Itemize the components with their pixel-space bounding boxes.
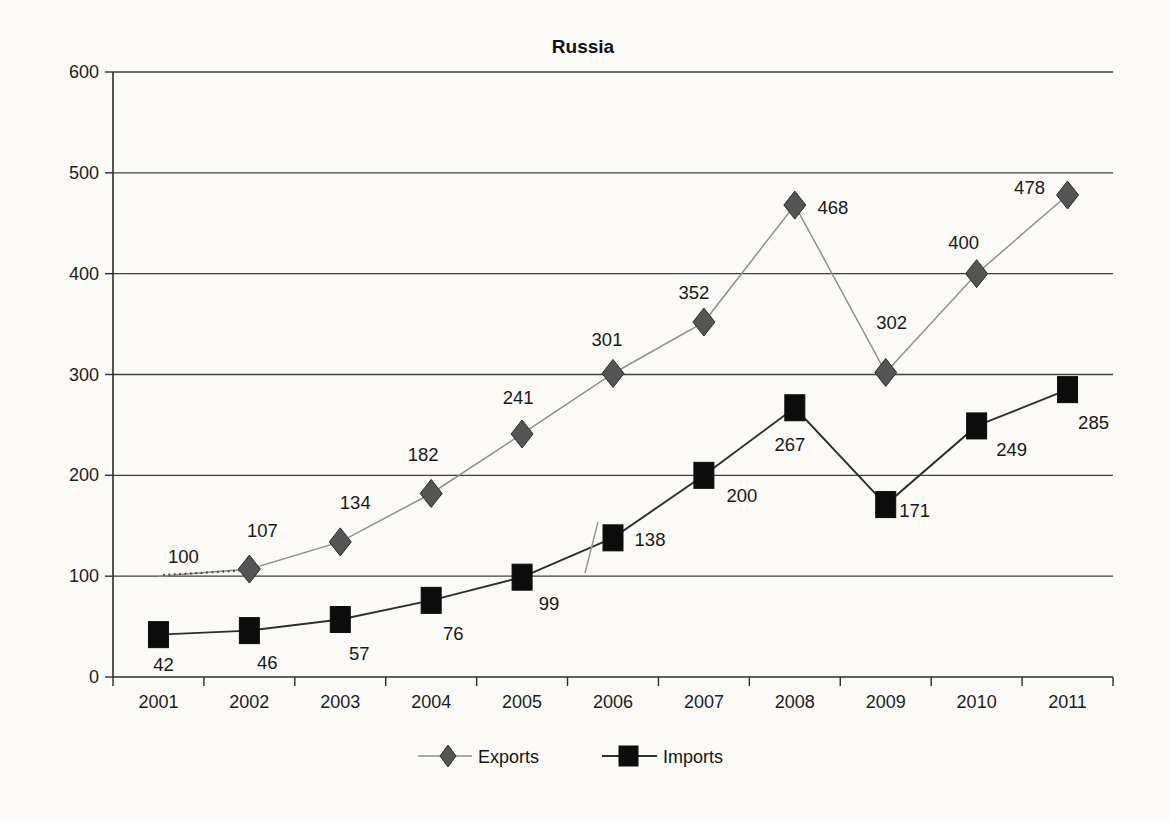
legend: Exports Imports [418,745,723,767]
x-tick-label-2003: 2003 [320,692,360,712]
point-exports-2004 [420,479,442,507]
y-tick-label-400: 400 [69,264,99,284]
value-label-exports-2009: 302 [876,312,907,333]
x-tick-label-2008: 2008 [775,692,815,712]
point-imports-2010 [967,413,987,439]
y-tick-label-600: 600 [69,62,99,82]
x-tick-label-2007: 2007 [684,692,724,712]
x-tick-label-2009: 2009 [866,692,906,712]
point-imports-2002 [239,618,259,644]
x-tick-label-2010: 2010 [957,692,997,712]
value-label-imports-2008: 267 [774,434,805,455]
value-label-imports-2002: 46 [257,652,278,673]
value-label-imports-2011: 285 [1078,412,1109,433]
legend-exports-diamond-icon [440,745,456,767]
point-exports-2003 [329,528,351,556]
legend-label-exports: Exports [478,747,539,767]
x-tick-label-2011: 2011 [1048,692,1087,712]
point-imports-2011 [1058,377,1078,403]
point-imports-2008 [785,395,805,421]
point-exports-2011 [1057,181,1079,209]
value-label-imports-2009: 171 [899,500,930,521]
series-layer [148,181,1078,648]
y-tick-label-200: 200 [69,465,99,485]
value-label-exports-2005: 241 [503,387,534,408]
value-label-exports-2003: 134 [340,492,371,513]
value-label-imports-2010: 249 [996,439,1027,460]
value-label-exports-2008: 468 [817,197,848,218]
point-exports-2009 [875,358,897,386]
value-label-exports-2001: 100 [168,546,199,567]
value-label-imports-2006: 138 [635,529,666,550]
point-imports-2001 [148,622,168,648]
value-label-exports-2006: 301 [592,329,623,350]
value-label-imports-2007: 200 [726,485,757,506]
chart-title: Russia [552,36,615,57]
x-tick-label-2002: 2002 [229,692,269,712]
x-tick-label-2005: 2005 [502,692,542,712]
x-tick-label-2006: 2006 [593,692,633,712]
russia-trade-line-chart: 0100200300400500600200120022003200420052… [0,0,1169,823]
scanned-chart-page: 0100200300400500600200120022003200420052… [0,0,1169,823]
value-label-exports-2011: 478 [1014,177,1045,198]
point-exports-2010 [966,260,988,288]
legend-label-imports: Imports [663,747,723,767]
value-label-imports-2003: 57 [349,643,370,664]
value-label-exports-2007: 352 [678,282,709,303]
value-label-exports-2010: 400 [948,232,979,253]
point-imports-2003 [330,607,350,633]
point-exports-2006 [602,359,624,387]
value-label-exports-2002: 107 [247,520,278,541]
scan-artifact-slash [585,522,598,573]
point-imports-2005 [512,564,532,590]
point-imports-2009 [876,492,896,518]
y-tick-label-0: 0 [89,667,99,687]
point-imports-2007 [694,462,714,488]
value-label-imports-2004: 76 [443,623,464,644]
point-label-layer: 1001071341822413013524683024004784246577… [153,177,1109,675]
point-imports-2006 [603,525,623,551]
value-label-imports-2005: 99 [539,593,560,614]
point-exports-2005 [511,420,533,448]
y-tick-label-300: 300 [69,365,99,385]
y-tick-label-500: 500 [69,163,99,183]
point-exports-2002 [238,555,260,583]
value-label-exports-2004: 182 [408,444,439,465]
grid-layer: 0100200300400500600200120022003200420052… [69,62,1113,712]
x-tick-label-2001: 2001 [138,692,178,712]
y-tick-label-100: 100 [69,566,99,586]
legend-imports-square-icon [619,746,638,766]
value-label-imports-2001: 42 [153,654,174,675]
x-tick-label-2004: 2004 [411,692,451,712]
series-imports-line [158,390,1067,635]
point-imports-2004 [421,587,441,613]
